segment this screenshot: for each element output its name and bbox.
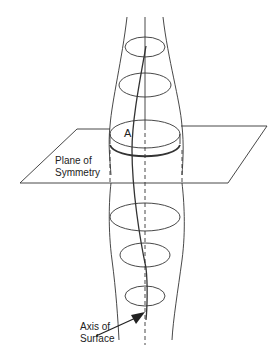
axis-label-line1: Axis of [80,321,110,333]
plane-label-line1: Plane of [55,155,92,167]
arrowhead-icon [131,312,145,324]
point-a-label: A [124,127,131,139]
axis-label-line2: Surface [80,333,114,345]
plane-label-line2: Symmetry [55,167,100,179]
diagram-canvas [0,0,280,361]
